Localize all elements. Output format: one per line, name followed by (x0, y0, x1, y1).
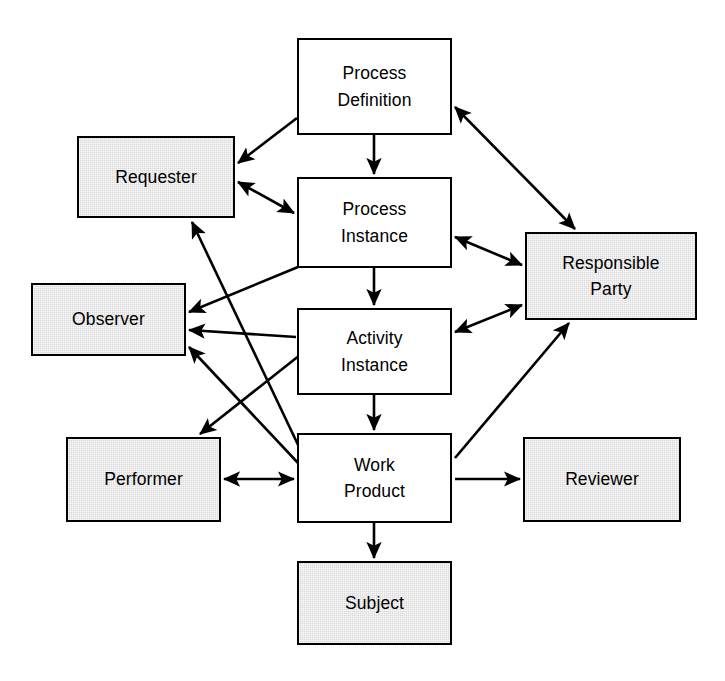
node-observer[interactable]: Observer (31, 283, 186, 356)
node-label-line: Reviewer (565, 466, 639, 492)
node-label-line: Process (343, 196, 407, 222)
node-label-line: Party (590, 276, 631, 302)
node-activity-instance[interactable]: Activity Instance (297, 308, 452, 395)
edge-ai-obs (189, 330, 296, 337)
node-label-line: Process (343, 60, 407, 86)
diagram-canvas: Process Definition Requester Process Ins… (0, 0, 725, 681)
node-label-line: Instance (341, 352, 408, 378)
node-label-line: Responsible (562, 250, 659, 276)
node-label-line: Activity (346, 325, 402, 351)
node-label-line: Observer (72, 306, 145, 332)
edge-pd-rp (455, 107, 575, 229)
edge-ai-perf (200, 355, 300, 434)
node-label-line: Instance (341, 223, 408, 249)
node-label-line: Subject (345, 590, 404, 616)
node-label-line: Product (344, 478, 405, 504)
node-responsible-party[interactable]: Responsible Party (525, 232, 697, 320)
node-label-line: Definition (338, 87, 412, 113)
node-process-instance[interactable]: Process Instance (297, 177, 452, 268)
edge-pi-obs (189, 267, 298, 312)
edge-req-pi (238, 182, 294, 213)
node-label-line: Performer (104, 466, 183, 492)
node-requester[interactable]: Requester (77, 136, 235, 218)
node-process-definition[interactable]: Process Definition (297, 38, 452, 135)
node-reviewer[interactable]: Reviewer (523, 437, 681, 522)
edge-pd-req (238, 118, 297, 163)
edge-pi-rp (455, 237, 522, 265)
node-performer[interactable]: Performer (66, 437, 221, 522)
node-label-line: Work (354, 452, 395, 478)
edge-ai-rp (455, 305, 522, 332)
node-work-product[interactable]: Work Product (297, 433, 452, 523)
edge-wp-req (192, 222, 310, 470)
node-subject[interactable]: Subject (297, 561, 452, 645)
node-label-line: Requester (115, 164, 197, 190)
